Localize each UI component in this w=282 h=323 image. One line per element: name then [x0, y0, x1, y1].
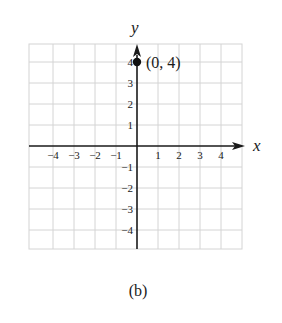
y-tick-label: −4 — [121, 224, 133, 236]
x-tick-label: 3 — [197, 149, 203, 161]
y-tick-label: 1 — [128, 119, 134, 131]
x-tick-label: −3 — [68, 149, 80, 161]
axes — [29, 44, 245, 249]
y-tick-label: 3 — [128, 77, 134, 89]
y-tick-label: 2 — [128, 98, 134, 110]
y-tick-label: −3 — [121, 203, 133, 215]
x-tick-label: 2 — [176, 149, 182, 161]
x-tick-label: −4 — [47, 149, 59, 161]
x-tick-label: −2 — [89, 149, 101, 161]
point-label: (0, 4) — [146, 54, 181, 72]
figure-caption: (b) — [129, 282, 148, 300]
data-point — [133, 58, 141, 66]
coordinate-plane: −4−3−2−11234−4−3−2−11234 (0, 4) x y (b) — [0, 0, 282, 323]
x-tick-label: 4 — [218, 149, 224, 161]
data-points: (0, 4) — [133, 54, 181, 72]
y-tick-label: −2 — [121, 182, 133, 194]
y-tick-label: 4 — [128, 56, 134, 68]
x-tick-label: 1 — [155, 149, 161, 161]
x-tick-label: −1 — [110, 149, 122, 161]
y-axis-label: y — [129, 18, 139, 37]
y-tick-label: −1 — [121, 161, 133, 173]
x-axis-label: x — [252, 136, 261, 155]
